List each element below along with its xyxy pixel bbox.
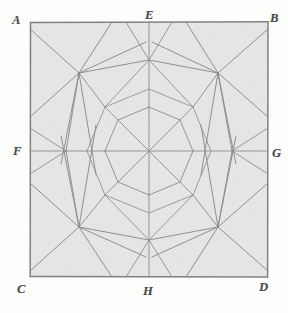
- graphite-shading: [30, 22, 268, 277]
- label-b: B: [270, 12, 278, 25]
- geometric-figure: A B C D E F G H: [0, 0, 288, 313]
- figure-canvas: [0, 0, 288, 313]
- label-c: C: [17, 283, 25, 296]
- label-h: H: [143, 285, 153, 298]
- label-g: G: [272, 147, 281, 160]
- label-a: A: [12, 14, 20, 27]
- label-f: F: [13, 145, 21, 158]
- label-d: D: [259, 281, 268, 294]
- label-e: E: [145, 9, 153, 22]
